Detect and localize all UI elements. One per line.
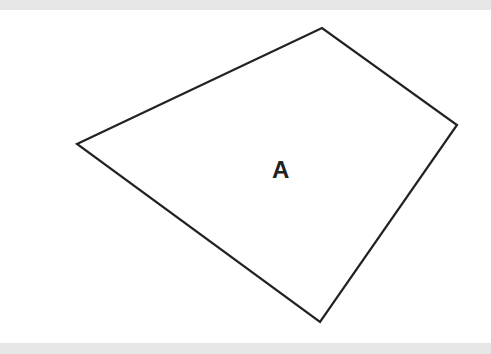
shape-label: A	[272, 156, 289, 184]
quadrilateral-diagram	[0, 0, 491, 354]
bottom-border-band	[0, 343, 491, 354]
quadrilateral-shape	[77, 28, 457, 322]
